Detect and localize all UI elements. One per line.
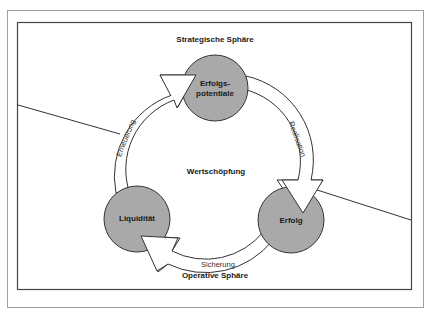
node-label-erfolgspotentiale-1: Erfolgs- [200, 79, 231, 88]
node-erfolgspotentiale [182, 55, 248, 121]
node-label-erfolgspotentiale-2: potentiale [196, 89, 234, 98]
node-label-erfolg: Erfolg [279, 216, 302, 225]
value-creation-cycle-diagram: Strategische Sphäre Operative Sphäre Wer… [0, 0, 430, 320]
center-label: Wertschöpfung [187, 167, 246, 176]
arrow-label-sicherung: Sicherung [201, 260, 235, 269]
title-operative-sphere: Operative Sphäre [182, 271, 249, 280]
title-strategic-sphere: Strategische Sphäre [176, 35, 254, 44]
node-label-liquiditaet: Liquidität [119, 214, 155, 223]
